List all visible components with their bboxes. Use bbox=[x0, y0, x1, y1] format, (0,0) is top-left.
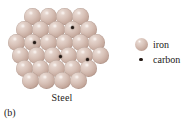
steel-lattice-figure: Steel (b) iron carbon bbox=[0, 0, 196, 124]
iron-sphere-icon bbox=[131, 38, 151, 51]
structure-label: Steel bbox=[0, 92, 124, 103]
carbon-dot-icon bbox=[131, 58, 151, 62]
iron-atom bbox=[92, 47, 109, 64]
legend-item-iron: iron bbox=[131, 37, 195, 52]
iron-atom bbox=[38, 72, 55, 89]
iron-atom bbox=[70, 72, 87, 89]
legend-label-iron: iron bbox=[151, 39, 169, 50]
iron-atom bbox=[22, 72, 39, 89]
legend-label-carbon: carbon bbox=[151, 54, 180, 65]
panel-label: (b) bbox=[4, 107, 16, 118]
lattice-diagram bbox=[0, 0, 124, 92]
iron-atom bbox=[54, 72, 71, 89]
legend: iron carbon bbox=[131, 37, 195, 67]
legend-item-carbon: carbon bbox=[131, 52, 195, 67]
